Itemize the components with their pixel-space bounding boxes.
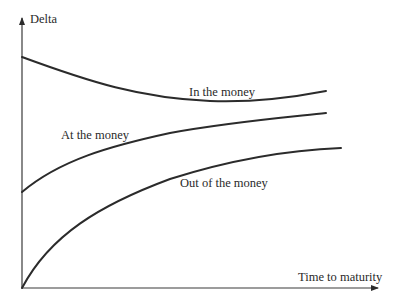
out-of-the-money-label: Out of the money — [180, 176, 269, 190]
x-axis-label: Time to maturity — [298, 270, 383, 284]
delta-vs-time-chart: Delta Time to maturity In the money At t… — [0, 0, 394, 305]
in-the-money-curve — [22, 57, 326, 101]
at-the-money-label: At the money — [61, 128, 130, 142]
out-of-the-money-curve — [22, 148, 341, 288]
y-axis-label: Delta — [30, 12, 58, 26]
in-the-money-label: In the money — [189, 85, 256, 99]
at-the-money-curve — [22, 113, 326, 192]
